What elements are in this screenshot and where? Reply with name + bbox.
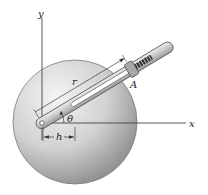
dimension-r-arrow — [119, 57, 125, 63]
y-axis-label: y — [37, 8, 44, 19]
point-a-label: A — [129, 79, 137, 90]
dimension-r-tick-end — [122, 55, 126, 62]
mechanics-diagram: y x r A θ h — [0, 0, 208, 195]
angle-label: θ — [67, 113, 73, 124]
x-axis-label: x — [189, 118, 195, 129]
offset-label: h — [56, 131, 62, 142]
